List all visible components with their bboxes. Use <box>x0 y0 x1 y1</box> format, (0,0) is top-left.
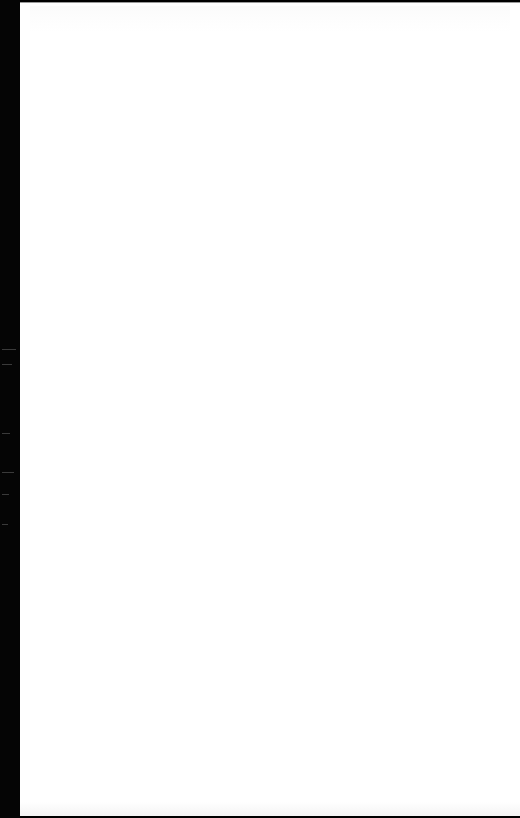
blank-document-page <box>20 2 520 816</box>
edge-mark <box>2 349 16 350</box>
edge-mark <box>2 364 12 365</box>
edge-mark <box>2 433 10 434</box>
edge-mark <box>2 494 9 495</box>
scanner-edge-shadow <box>0 0 20 818</box>
faint-bleed-through <box>30 6 510 32</box>
edge-mark <box>2 524 8 525</box>
page-bottom-shadow <box>20 802 520 816</box>
edge-mark <box>2 472 14 473</box>
